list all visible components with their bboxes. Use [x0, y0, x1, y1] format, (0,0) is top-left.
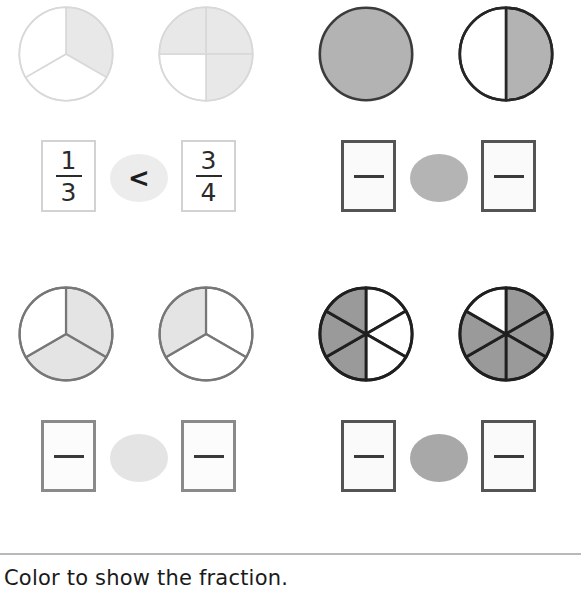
worksheet-page: 13 < 34 — [0, 0, 581, 605]
fraction-denominator: 4 — [201, 180, 217, 204]
fraction-box-right[interactable] — [481, 420, 536, 492]
problem-3 — [300, 280, 580, 530]
fraction-bar — [354, 175, 384, 178]
fraction-bar — [354, 455, 384, 458]
fraction-circle-left[interactable] — [18, 6, 114, 102]
fraction-models-row — [0, 280, 280, 400]
answer-row: 13 < 34 — [0, 140, 280, 230]
comparison-symbol-oval[interactable] — [410, 154, 468, 202]
fraction-box-left[interactable] — [341, 140, 396, 212]
comparison-symbol-oval[interactable] — [410, 434, 468, 482]
fraction-box-left[interactable] — [341, 420, 396, 492]
fraction-circle-left[interactable] — [18, 286, 114, 382]
answer-row — [300, 420, 580, 510]
fraction-circle-right[interactable] — [458, 286, 554, 382]
fraction-circle-left[interactable] — [318, 6, 414, 102]
fraction-circle-right[interactable] — [458, 6, 554, 102]
fraction-bar — [196, 175, 222, 177]
footer-divider — [0, 553, 581, 555]
answer-row — [0, 420, 280, 510]
fraction-models-row — [300, 280, 580, 400]
fraction-box-right[interactable] — [481, 140, 536, 212]
fraction-circle-right[interactable] — [158, 286, 254, 382]
problem-example: 13 < 34 — [0, 0, 280, 250]
instruction-text: Color to show the fraction. — [4, 566, 288, 590]
fraction-numerator: 3 — [201, 148, 217, 172]
fraction-box-left[interactable] — [41, 420, 96, 492]
fraction-box-right[interactable]: 34 — [181, 140, 236, 212]
problem-2 — [0, 280, 280, 530]
fraction-box-left[interactable]: 13 — [41, 140, 96, 212]
fraction-bar — [194, 455, 224, 458]
fraction-circle-right[interactable] — [158, 6, 254, 102]
fraction-bar — [56, 175, 82, 177]
fraction-box-right[interactable] — [181, 420, 236, 492]
fraction-models-row — [0, 0, 280, 120]
answer-row — [300, 140, 580, 230]
fraction-models-row — [300, 0, 580, 120]
comparison-symbol-oval[interactable] — [110, 434, 168, 482]
comparison-symbol-oval[interactable]: < — [110, 154, 168, 202]
fraction-bar — [494, 455, 524, 458]
comparison-symbol: < — [128, 165, 150, 191]
fraction-bar — [54, 455, 84, 458]
fraction-numerator: 1 — [61, 148, 77, 172]
fraction-denominator: 3 — [61, 180, 77, 204]
fraction-bar — [494, 175, 524, 178]
problem-1 — [300, 0, 580, 250]
fraction-circle-left[interactable] — [318, 286, 414, 382]
